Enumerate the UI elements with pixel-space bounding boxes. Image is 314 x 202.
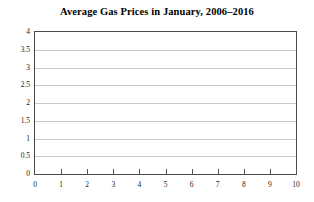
x-tick-mark — [270, 169, 271, 174]
x-tick-label: 7 — [208, 180, 228, 189]
y-tick-label: 2.5 — [2, 81, 30, 89]
y-tick-label: 2 — [2, 99, 30, 107]
x-tick-mark — [296, 169, 297, 174]
x-tick-label: 4 — [129, 180, 149, 189]
y-tick-label: 3 — [2, 64, 30, 72]
x-tick-label: 8 — [234, 180, 254, 189]
y-tick-label: 4 — [2, 28, 30, 36]
x-tick-label: 2 — [77, 180, 97, 189]
x-axis-tick-marks — [35, 32, 296, 174]
y-tick-label: 1 — [2, 135, 30, 143]
chart-figure: Average Gas Prices in January, 2006–2016… — [0, 0, 314, 202]
x-tick-mark — [61, 169, 62, 174]
x-tick-mark — [87, 169, 88, 174]
y-tick-label: 0 — [2, 170, 30, 178]
x-tick-mark — [139, 169, 140, 174]
plot-area — [34, 31, 297, 175]
x-tick-mark — [166, 169, 167, 174]
x-tick-label: 9 — [260, 180, 280, 189]
x-tick-label: 0 — [25, 180, 45, 189]
x-tick-mark — [192, 169, 193, 174]
x-tick-label: 5 — [156, 180, 176, 189]
x-tick-mark — [244, 169, 245, 174]
chart-title: Average Gas Prices in January, 2006–2016 — [0, 6, 314, 17]
x-tick-mark — [113, 169, 114, 174]
x-axis-tick-labels: 012345678910 — [0, 180, 314, 194]
y-axis-tick-labels: 00.511.522.533.54 — [0, 0, 34, 202]
y-tick-label: 3.5 — [2, 46, 30, 54]
x-tick-label: 1 — [51, 180, 71, 189]
x-tick-label: 6 — [182, 180, 202, 189]
x-tick-mark — [218, 169, 219, 174]
x-tick-label: 3 — [103, 180, 123, 189]
y-tick-label: 1.5 — [2, 117, 30, 125]
x-tick-label: 10 — [286, 180, 306, 189]
y-tick-label: 0.5 — [2, 152, 30, 160]
